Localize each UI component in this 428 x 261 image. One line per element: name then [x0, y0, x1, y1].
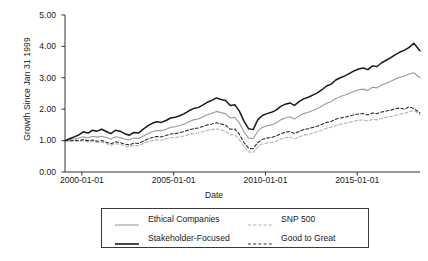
series-line [65, 43, 420, 140]
x-axis-tick-labels: 2000-01-012005-01-012010-01-012015-01-01 [0, 176, 428, 190]
data-series-lines [65, 43, 420, 152]
legend-label: Ethical Companies [148, 214, 220, 224]
legend-item: SNP 500 [235, 214, 368, 224]
growth-since-1999-line-chart: Growth Since Jan 31 1999 0.001.002.003.0… [0, 0, 428, 261]
chart-legend: Ethical CompaniesSNP 500Stakeholder-Focu… [101, 208, 369, 248]
x-axis-title: Date [0, 190, 428, 200]
legend-item: Good to Great [235, 233, 368, 243]
x-tick-label: 2010-01-01 [243, 176, 287, 185]
legend-grid: Ethical CompaniesSNP 500Stakeholder-Focu… [102, 209, 368, 247]
axis-lines [65, 15, 420, 172]
legend-line-sample [114, 234, 140, 242]
x-tick-label: 2015-01-01 [335, 176, 379, 185]
legend-line-sample [247, 215, 273, 223]
legend-label: Good to Great [281, 233, 335, 243]
legend-line-sample [114, 215, 140, 223]
legend-label: Stakeholder-Focused [148, 233, 230, 243]
series-line [65, 107, 420, 149]
legend-item: Ethical Companies [102, 214, 235, 224]
x-tick-label: 2005-01-01 [152, 176, 196, 185]
legend-label: SNP 500 [281, 214, 315, 224]
legend-line-sample [247, 234, 273, 242]
x-tick-label: 2000-01-01 [60, 176, 104, 185]
legend-item: Stakeholder-Focused [102, 233, 235, 243]
